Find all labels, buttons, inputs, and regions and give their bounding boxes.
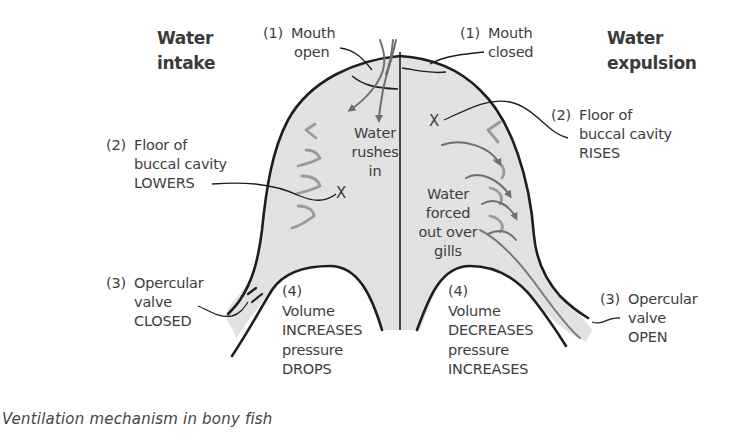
label-volume-increases: (4) Volume INCREASES pressure DROPS [282,282,362,380]
label-valve-closed: (3)Opercular valve CLOSED [106,274,203,331]
label-mouth-closed: (1)Mouth closed [460,24,533,62]
label-floor-lowers: (2)Floor of buccal cavity LOWERS [106,136,227,193]
heading-water-intake: Water intake [157,26,215,76]
x-mark-right: X [429,112,439,130]
label-water-rushes-in: Water rushes in [340,124,410,181]
figure-caption: Ventilation mechanism in bony fish [2,410,273,428]
heading-water-expulsion: Water expulsion [607,26,697,76]
label-volume-decreases: (4) Volume DECREASES pressure INCREASES [448,282,533,380]
label-floor-rises: (2)Floor of buccal cavity RISES [551,106,672,163]
label-water-forced-out: Water forced out over gills [408,185,488,261]
label-valve-open: (3)Opercular valve OPEN [600,290,697,347]
label-mouth-open: (1)Mouth open [263,24,335,62]
x-mark-left: X [336,184,346,202]
